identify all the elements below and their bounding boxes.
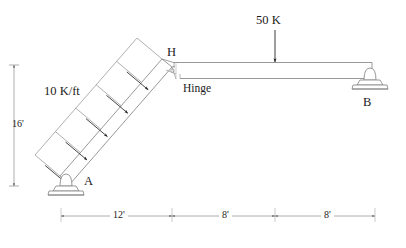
dimension-label-16ft: 16': [12, 119, 24, 129]
inclined-member-AH: [60, 59, 172, 184]
node-label-H: H: [167, 46, 176, 59]
dimension-label-8ft-second: 8': [321, 210, 334, 220]
dimension-label-12ft: 12': [110, 210, 128, 220]
horizontal-beam-HB: [174, 63, 372, 79]
distributed-load-label: 10 K/ft: [44, 85, 80, 98]
dimension-label-8ft-first: 8': [219, 210, 232, 220]
frame-drawing-canvas: [0, 0, 406, 248]
distributed-load-block-10kft: [35, 38, 162, 176]
point-load-label: 50 K: [256, 14, 281, 27]
hinge-label: Hinge: [183, 83, 211, 95]
structural-frame-diagram: 10 K/ft 50 K H A B Hinge 16' 12' 8' 8': [0, 0, 406, 248]
node-label-A: A: [84, 175, 93, 188]
node-label-B: B: [363, 96, 371, 109]
pin-support-A: [48, 174, 84, 195]
